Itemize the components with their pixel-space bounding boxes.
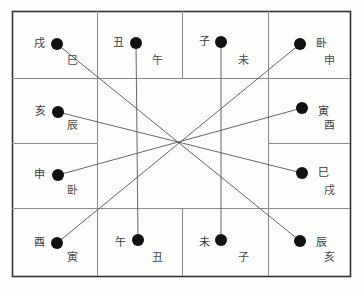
node-chen-label: 辰 (316, 237, 327, 248)
node-zi-dot (215, 36, 227, 48)
node-si-label: 巳 (318, 167, 329, 178)
connector-lines (57, 42, 302, 243)
node-chou-dot (130, 37, 142, 49)
node-wu-label: 午 (115, 237, 126, 248)
node-yin-label: 寅 (318, 106, 329, 117)
node-zi-label: 子 (199, 36, 210, 47)
connector-shen-yin (58, 108, 302, 175)
node-mao-label: 卧 (316, 38, 327, 49)
connector-chou-wu (136, 43, 138, 240)
node-hai-label: 亥 (35, 106, 46, 117)
node-wu-dot (132, 234, 144, 246)
cell-label-chou: 丑 (152, 252, 163, 263)
cell-label-shen: 申 (324, 55, 335, 66)
node-wei-dot (215, 234, 227, 246)
cell-label-zi: 子 (238, 252, 249, 263)
node-shen-label: 申 (34, 169, 45, 180)
chart-canvas (0, 0, 361, 292)
cell-label-you: 酉 (324, 120, 335, 131)
node-shen-dot (52, 169, 64, 181)
node-xu-dot (51, 38, 63, 50)
cell-label-chen: 辰 (67, 120, 78, 131)
node-mao-dot (294, 38, 306, 50)
node-yin-dot (296, 102, 308, 114)
node-you-dot (51, 237, 63, 249)
node-xu-label: 戌 (34, 38, 45, 49)
node-chen-dot (294, 235, 306, 247)
cell-label-wei: 未 (238, 55, 249, 66)
cell-label-yin: 寅 (67, 252, 78, 263)
node-si-dot (296, 167, 308, 179)
node-wei-label: 未 (199, 237, 210, 248)
connector-hai-si (58, 112, 302, 173)
cell-label-mao: 卧 (67, 185, 78, 196)
node-you-label: 酉 (34, 237, 45, 248)
cell-label-si: 巳 (67, 55, 78, 66)
cell-label-wu: 午 (152, 55, 163, 66)
cell-label-xu: 戌 (324, 185, 335, 196)
node-chou-label: 丑 (113, 37, 124, 48)
node-hai-dot (52, 106, 64, 118)
cell-label-hai: 亥 (324, 252, 335, 263)
branch-chart: 戌丑子卧亥寅申巳酉午未辰巳午未申辰酉卧戌寅丑子亥 (0, 0, 361, 292)
